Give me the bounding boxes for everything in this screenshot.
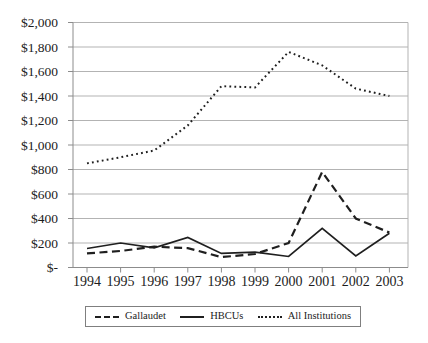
- plot-svg: $-$200$400$600$800$1,000$1,200$1,400$1,6…: [0, 0, 428, 343]
- legend-solid-line-icon: [180, 316, 204, 318]
- legend-item-hbcus: HBCUs: [180, 311, 243, 322]
- legend: Gallaudet HBCUs All Institutions: [85, 306, 361, 327]
- legend-label-hbcus: HBCUs: [210, 311, 243, 322]
- legend-dashed-line-icon: [95, 316, 119, 318]
- x-tick-label: 2000: [275, 274, 303, 289]
- y-tick-label: $800: [31, 162, 58, 177]
- legend-label-gallaudet: Gallaudet: [125, 311, 166, 322]
- x-tick-label: 1995: [107, 274, 135, 289]
- y-tick-label: $200: [31, 236, 58, 251]
- series-hbcus: [87, 228, 389, 256]
- x-tick-label: 1994: [73, 274, 101, 289]
- legend-item-all-institutions: All Institutions: [258, 311, 351, 322]
- series-all-institutions: [87, 52, 389, 163]
- y-tick-label: $1,400: [21, 89, 58, 104]
- y-tick-label: $1,000: [21, 138, 58, 153]
- y-tick-label: $1,800: [21, 40, 58, 55]
- legend-dotted-line-icon: [258, 316, 282, 318]
- chart-figure: $-$200$400$600$800$1,000$1,200$1,400$1,6…: [0, 0, 428, 343]
- y-tick-label: $1,600: [21, 64, 58, 79]
- x-tick-label: 2002: [342, 274, 370, 289]
- legend-label-all-institutions: All Institutions: [288, 311, 351, 322]
- x-tick-label: 1997: [174, 274, 202, 289]
- x-tick-label: 2001: [308, 274, 336, 289]
- y-tick-label: $-: [47, 260, 59, 275]
- x-tick-label: 2003: [375, 274, 403, 289]
- x-tick-label: 1998: [207, 274, 235, 289]
- y-tick-label: $2,000: [21, 15, 58, 30]
- x-tick-label: 1999: [241, 274, 269, 289]
- y-tick-label: $600: [31, 187, 58, 202]
- y-tick-label: $400: [31, 211, 58, 226]
- legend-item-gallaudet: Gallaudet: [95, 311, 166, 322]
- x-tick-label: 1996: [140, 274, 168, 289]
- y-tick-label: $1,200: [21, 113, 58, 128]
